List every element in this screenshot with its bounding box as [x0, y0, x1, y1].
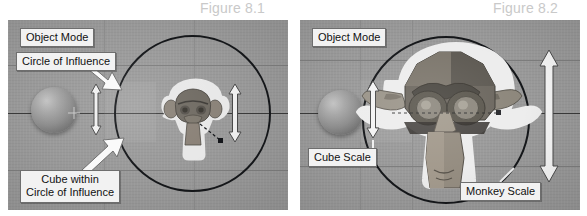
label-monkey-scale: Monkey Scale	[460, 182, 541, 201]
label-cube-within-line1: Cube within	[26, 173, 114, 186]
monkey-head-object	[163, 80, 228, 159]
viewport-panel-right[interactable]: Object Mode Cube Scale Monkey Scale	[300, 20, 580, 210]
pointer-leader-monkey-scale	[500, 168, 514, 182]
3d-cursor-icon	[68, 107, 80, 119]
cube-scale-arrow	[91, 84, 101, 135]
figure-caption-right: Figure 8.2	[493, 0, 558, 16]
monkey-scale-arrow	[540, 50, 558, 182]
viewport-panel-left[interactable]: Object Mode Circle of Influence Cube wit…	[8, 20, 288, 210]
label-object-mode: Object Mode	[20, 28, 94, 47]
label-object-mode: Object Mode	[312, 28, 386, 47]
figure-caption-left: Figure 8.1	[200, 0, 265, 16]
label-cube-within-circle-of-influence: Cube within Circle of Influence	[20, 170, 120, 203]
label-cube-scale: Cube Scale	[308, 148, 377, 167]
monkey-scale-arrow	[229, 84, 241, 142]
label-circle-of-influence: Circle of Influence	[16, 52, 116, 71]
label-cube-within-line2: Circle of Influence	[26, 186, 114, 199]
monkey-head-object	[358, 44, 540, 188]
